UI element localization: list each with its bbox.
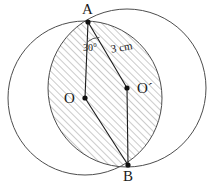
label-center-o: O xyxy=(64,91,75,106)
point-a-dot xyxy=(85,19,90,24)
center-o-dot xyxy=(82,95,87,100)
geometry-canvas xyxy=(0,0,209,185)
label-angle-30-degrees: 30° xyxy=(83,43,97,53)
geometry-figure: A B O O´ 30° 3 cm xyxy=(0,0,209,185)
center-o-prime-dot xyxy=(124,85,129,90)
point-b-dot xyxy=(125,162,130,167)
label-point-a: A xyxy=(82,2,93,17)
label-point-b: B xyxy=(123,169,133,184)
label-center-o-prime: O´ xyxy=(137,81,153,96)
